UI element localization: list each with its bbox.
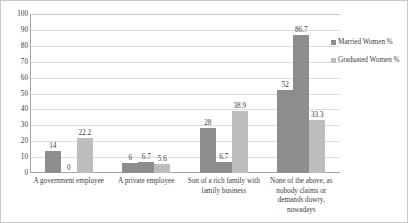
bar-value-label: 86.7 <box>295 26 308 34</box>
bar-graduated-women: 5.6 <box>154 164 170 173</box>
y-axis-tick-label: 80 <box>2 42 28 50</box>
y-axis-tick-label: 90 <box>2 26 28 34</box>
y-axis-tick-label: 30 <box>2 121 28 129</box>
bar-value-label: 38.9 <box>233 102 246 110</box>
bar-value-label: 6 <box>128 154 132 162</box>
y-axis-tick-label: 70 <box>2 58 28 66</box>
bar-value-label: 22.2 <box>78 129 91 137</box>
bar-value-label: 52 <box>282 81 289 89</box>
bar-married-women: 14 <box>45 151 61 173</box>
bar-graduated-women: 38.9 <box>232 111 248 173</box>
y-axis: 1009080706050403020100 <box>1 14 28 173</box>
bar-married-women: 52 <box>277 90 293 173</box>
legend-swatch-married-icon <box>331 40 336 45</box>
y-axis-tick-label: 40 <box>2 105 28 113</box>
y-axis-tick-label: 60 <box>2 74 28 82</box>
legend-label: Married Women % <box>338 38 393 47</box>
x-axis-category-label: Son of a rich family with family busines… <box>185 177 263 215</box>
bar-graduated-women: 22.2 <box>77 138 93 173</box>
bar-value-label: 33.3 <box>311 111 324 119</box>
y-axis-tick-label: 100 <box>2 10 28 18</box>
bar-groups: 14022.266.75.6286.738.95286.733.3 <box>30 14 340 173</box>
x-axis-category-label: None of the above, as nobody claims or d… <box>263 177 341 215</box>
bar-group: 286.738.9 <box>185 14 263 173</box>
bar-group: 66.75.6 <box>108 14 186 173</box>
bar-value-label: 5.6 <box>158 155 167 163</box>
x-axis-category-label: A private employee <box>108 177 186 215</box>
bar-value-label: 28 <box>204 119 211 127</box>
legend-swatch-graduated-icon <box>331 58 336 63</box>
y-axis-tick-label: 10 <box>2 153 28 161</box>
bar-value-label: 6.7 <box>142 153 151 161</box>
bar-married-women: 6 <box>122 163 138 173</box>
bar-mid-value: 6.7 <box>138 162 154 173</box>
bar-graduated-women: 33.3 <box>309 120 325 173</box>
y-axis-tick-label: 20 <box>2 137 28 145</box>
bar-value-label: 6.7 <box>219 153 228 161</box>
legend-item: Married Women % <box>331 38 407 47</box>
legend-item: Graduated Women % <box>331 56 407 65</box>
bar-value-label: 0 <box>67 164 71 172</box>
bar-group: 14022.2 <box>30 14 108 173</box>
y-axis-tick-label: 50 <box>2 90 28 98</box>
bar-group: 5286.733.3 <box>263 14 341 173</box>
x-axis-category-label: A government employee <box>30 177 108 215</box>
legend-label: Graduated Women % <box>338 56 400 65</box>
bar-chart: 1009080706050403020100 14022.266.75.6286… <box>0 0 408 223</box>
bar-mid-value: 6.7 <box>216 162 232 173</box>
bar-mid-value: 86.7 <box>293 35 309 173</box>
x-axis-labels: A government employeeA private employeeS… <box>30 177 340 215</box>
bar-married-women: 28 <box>200 128 216 173</box>
y-axis-tick-label: 0 <box>2 169 28 177</box>
chart-legend: Married Women % Graduated Women % <box>331 38 407 74</box>
bar-value-label: 14 <box>49 142 56 150</box>
